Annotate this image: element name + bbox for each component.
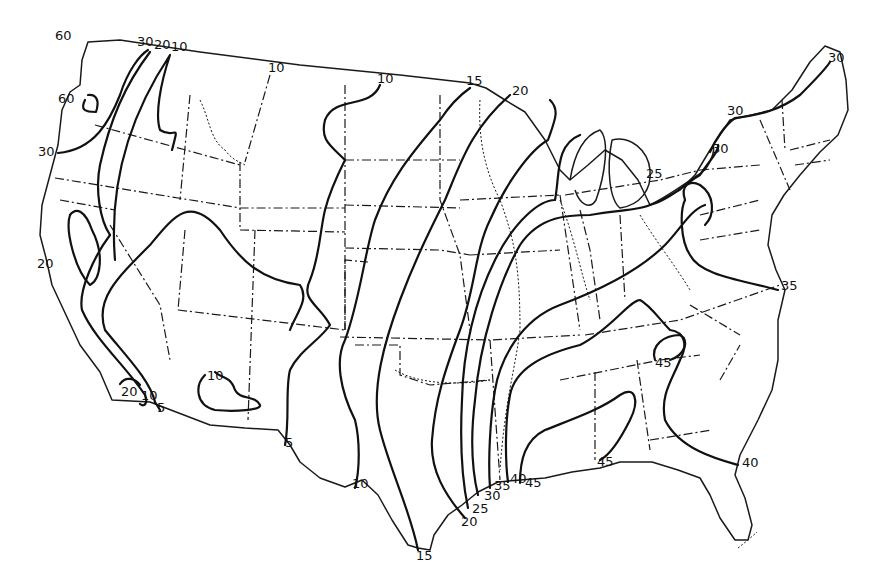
- label-az-10: 10: [207, 368, 224, 383]
- michigan-lower: [609, 139, 650, 208]
- label-tx-15: 15: [416, 548, 433, 563]
- label-tx-5: 5: [285, 435, 293, 450]
- label-mt-10: 10: [268, 60, 285, 75]
- isoline-30: [472, 62, 830, 495]
- label-ny-30-north: 30: [727, 103, 744, 118]
- label-tx-10: 10: [352, 476, 369, 491]
- label-ms-45: 45: [597, 454, 614, 469]
- lake-michigan-shore: [570, 130, 606, 205]
- label-wa-60-top: 60: [55, 28, 72, 43]
- label-nw-20: 20: [154, 37, 171, 52]
- label-nw-30: 30: [137, 34, 154, 49]
- label-ca-10-south: 10: [141, 388, 158, 403]
- isoline-5: [155, 85, 380, 445]
- label-wi-20: 20: [512, 83, 529, 98]
- isoline-35: [489, 200, 778, 488]
- label-nd-10: 10: [377, 71, 394, 86]
- label-me-30: 30: [828, 50, 845, 65]
- isopleth-map: 60 60 30 30 20 10 10 10 15 20 20 20 10 5…: [0, 0, 876, 585]
- label-ca-20-south: 20: [121, 384, 138, 399]
- label-la-45: 45: [525, 475, 542, 490]
- river-boundaries: [200, 100, 690, 470]
- label-tx-25: 25: [472, 501, 489, 516]
- isolines: [58, 50, 830, 550]
- label-or-30-coast: 30: [38, 144, 55, 159]
- isoline-20-nw: [98, 52, 150, 235]
- isoline-25: [461, 135, 580, 508]
- isoline-ca-inner: [69, 211, 100, 285]
- label-mn-15: 15: [466, 73, 483, 88]
- label-ny-30-west: 30: [712, 141, 729, 156]
- label-mi-25: 25: [646, 166, 663, 181]
- label-ca-5-south: 5: [157, 400, 165, 415]
- label-wa-60-coast: 60: [58, 91, 75, 106]
- isoline-20-ca: [81, 235, 146, 405]
- isoline-60-wa: [83, 95, 98, 112]
- label-ga-45: 45: [655, 355, 672, 370]
- isoline-10-ca: [102, 211, 303, 402]
- isoline-45-la: [520, 392, 635, 483]
- isoline-40: [506, 300, 738, 482]
- label-ca-20-coast: 20: [37, 256, 54, 271]
- label-la-35: 35: [494, 478, 511, 493]
- label-nc-35: 35: [781, 278, 798, 293]
- state-boundaries: [55, 75, 830, 480]
- label-tx-20: 20: [461, 514, 478, 529]
- label-fl-40: 40: [742, 455, 759, 470]
- label-nw-10: 10: [171, 39, 188, 54]
